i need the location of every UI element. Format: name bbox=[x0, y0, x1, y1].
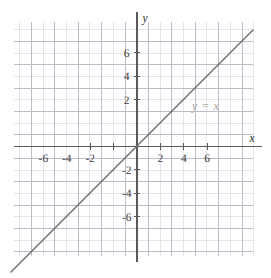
coordinate-plane-svg: -6 -4 -2 2 4 6 6 4 2 -2 -4 -6 x y y = x bbox=[0, 0, 271, 278]
x-axis-label: x bbox=[248, 132, 255, 144]
y-tick-label-4: 4 bbox=[124, 71, 130, 83]
x-tick-label-2: 2 bbox=[158, 153, 164, 165]
y-axis-label: y bbox=[141, 12, 148, 25]
graph-figure: -6 -4 -2 2 4 6 6 4 2 -2 -4 -6 x y y = x bbox=[0, 0, 271, 278]
x-tick-label-neg4: -4 bbox=[62, 153, 72, 165]
y-axis-tick-labels: 6 4 2 -2 -4 -6 bbox=[122, 48, 132, 224]
line-y-equals-x bbox=[11, 30, 253, 272]
axes-lines bbox=[14, 12, 262, 262]
minor-gridlines bbox=[14, 22, 254, 256]
y-tick-label-neg6: -6 bbox=[122, 212, 132, 224]
major-gridlines bbox=[14, 22, 253, 256]
x-tick-label-6: 6 bbox=[204, 153, 210, 165]
x-tick-label-neg2: -2 bbox=[85, 153, 95, 165]
y-tick-label-2: 2 bbox=[124, 95, 130, 107]
y-tick-label-6: 6 bbox=[124, 48, 130, 60]
y-tick-label-neg2: -2 bbox=[122, 165, 132, 177]
x-tick-label-neg6: -6 bbox=[39, 153, 49, 165]
line-equation-label: y = x bbox=[191, 99, 219, 113]
x-tick-label-4: 4 bbox=[181, 153, 187, 165]
y-tick-label-neg4: -4 bbox=[122, 188, 132, 200]
